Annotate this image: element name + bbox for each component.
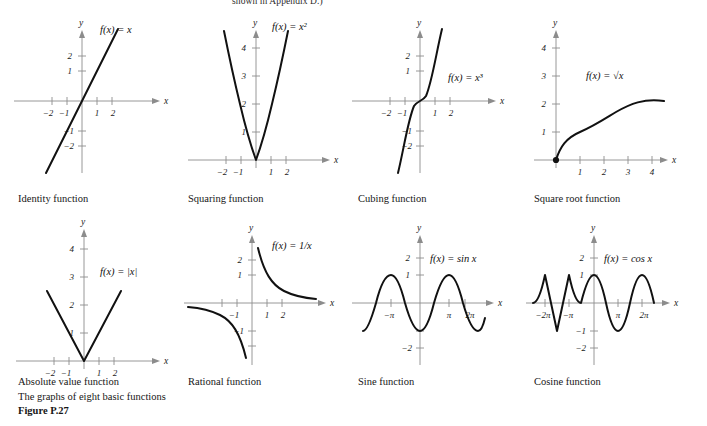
panel-absolute-value: −2 −1 1 2 4 3 2 1 x y f(x) = |x| Absolut…: [4, 213, 180, 413]
ytick-4: 4: [242, 43, 247, 53]
xtick-1: 1: [269, 167, 274, 177]
panel-cosine: −2π −π π 2π 2 1 −1 −2 x y f(x) = cos x C…: [520, 213, 696, 413]
axes: [14, 30, 160, 173]
y-axis-name: y: [248, 223, 254, 233]
xtick-neg-pi: −π: [384, 310, 395, 320]
ytick-3: 3: [541, 71, 547, 81]
chart-sine: −π π 2π 2 1 −2 x y f(x) = sin x: [344, 213, 520, 388]
y-axis-name: y: [78, 18, 84, 28]
chart-squaring: −2 −1 1 2 4 3 2 1 x y f(x) = x²: [174, 8, 350, 183]
equation-label: f(x) = x: [100, 24, 132, 36]
chart-absolute-value: −2 −1 1 2 4 3 2 1 x y f(x) = |x|: [4, 213, 180, 388]
figure-caption: The graphs of eight basic functions Figu…: [18, 390, 166, 417]
x-axis-name: x: [673, 298, 679, 308]
y-axis-name: y: [80, 217, 86, 227]
x-axis-name: x: [497, 298, 503, 308]
ytick-2: 2: [580, 253, 585, 263]
xtick-neg-2pi: −2π: [535, 310, 551, 320]
ytick-2: 2: [238, 255, 243, 265]
figure-caption-text: The graphs of eight basic functions: [18, 391, 166, 402]
xtick-neg2: −2: [381, 108, 392, 118]
xtick-1: 1: [95, 108, 100, 118]
xtick-2: 2: [285, 167, 290, 177]
xtick-2: 2: [602, 167, 607, 177]
ytick-3: 3: [69, 272, 75, 282]
y-axis-name: y: [590, 223, 596, 233]
ytick-2: 2: [406, 51, 411, 61]
equation-label: f(x) = x³: [448, 72, 484, 84]
equation-label: f(x) = |x|: [100, 266, 137, 278]
origin-point-marker: [553, 157, 559, 163]
chart-identity: −2 −1 1 2 2 1 −1 −2 x y f(x) = x: [4, 8, 180, 183]
panel-caption-square-root: Square root function: [534, 193, 620, 204]
xtick-4: 4: [650, 167, 655, 177]
xtick-neg1: −1: [397, 108, 408, 118]
xtick-1: 1: [578, 167, 583, 177]
panel-cubing: −2 −1 1 2 2 1 −1 −2 x y f(x) = x³ Cubing…: [344, 8, 520, 208]
chart-square-root: 1 2 3 4 4 3 2 1 x y f(x) = √x: [520, 8, 696, 183]
y-axis-name: y: [552, 18, 558, 28]
ytick-4: 4: [542, 43, 547, 53]
panel-squaring: −2 −1 1 2 4 3 2 1 x y f(x) = x² Squaring…: [174, 8, 350, 208]
chart-cosine: −2π −π π 2π 2 1 −1 −2 x y f(x) = cos x: [520, 213, 696, 388]
xtick-pi: π: [616, 310, 621, 320]
xtick-2: 2: [449, 108, 454, 118]
ytick-1: 1: [406, 66, 411, 76]
ytick-1: 1: [406, 270, 411, 280]
ytick-2: 2: [242, 99, 247, 109]
panel-caption-rational: Rational function: [188, 376, 261, 387]
panel-rational: −1 1 2 2 1 −1 x y f(x) = 1/x Rational fu…: [174, 213, 350, 413]
x-axis-name: x: [163, 96, 169, 106]
ytick-neg2: −2: [401, 343, 412, 353]
xtick-neg1: −1: [233, 167, 244, 177]
xtick-1: 1: [433, 108, 438, 118]
panel-sine: −π π 2π 2 1 −2 x y f(x) = sin x Sine fun…: [344, 213, 520, 413]
panel-caption-sine: Sine function: [358, 376, 414, 387]
ytick-2: 2: [68, 51, 73, 61]
panel-square-root: 1 2 3 4 4 3 2 1 x y f(x) = √x Square roo…: [520, 8, 696, 208]
xtick-neg1: −1: [229, 310, 240, 320]
x-axis-name: x: [671, 155, 677, 165]
x-axis-name: x: [163, 356, 169, 366]
curve-rational-right-branch: [258, 248, 316, 299]
ytick-1: 1: [68, 66, 73, 76]
xtick-pi: π: [447, 310, 452, 320]
ytick-2: 2: [406, 253, 411, 263]
figure-number: Figure P.27: [18, 404, 166, 417]
ytick-2: 2: [70, 300, 75, 310]
xtick-3: 3: [625, 167, 631, 177]
x-axis-name: x: [329, 298, 335, 308]
xtick-neg2: −2: [217, 167, 228, 177]
xtick-1: 1: [265, 310, 270, 320]
x-axis-name: x: [333, 155, 339, 165]
equation-label: f(x) = √x: [586, 70, 624, 82]
ytick-neg2: −2: [575, 343, 586, 353]
xtick-2pi: 2π: [639, 310, 649, 320]
xtick-2: 2: [111, 108, 116, 118]
equation-label: f(x) = x²: [272, 21, 308, 33]
equation-label: f(x) = sin x: [430, 253, 477, 265]
equation-label: f(x) = 1/x: [272, 240, 312, 252]
ytick-2: 2: [542, 99, 547, 109]
xtick-neg1: −1: [59, 108, 70, 118]
ytick-neg1: −1: [575, 326, 586, 336]
ytick-4: 4: [70, 244, 75, 254]
panel-caption-squaring: Squaring function: [188, 193, 264, 204]
axes: [184, 235, 326, 365]
y-axis-name: y: [416, 18, 422, 28]
chart-cubing: −2 −1 1 2 2 1 −1 −2 x y f(x) = x³: [344, 8, 520, 183]
y-axis-name: y: [252, 18, 258, 28]
xtick-neg-pi: −π: [563, 310, 574, 320]
axes: [352, 30, 496, 173]
equation-label: f(x) = cos x: [604, 253, 653, 265]
panel-caption-identity: Identity function: [18, 193, 88, 204]
xtick-2: 2: [281, 310, 286, 320]
ytick-1: 1: [238, 270, 243, 280]
panel-caption-cubing: Cubing function: [358, 193, 427, 204]
ytick-1: 1: [580, 270, 585, 280]
ytick-neg2: −2: [63, 141, 74, 151]
ytick-3: 3: [241, 71, 247, 81]
y-axis-name: y: [416, 223, 422, 233]
x-axis-name: x: [499, 96, 505, 106]
axes: [534, 30, 668, 168]
